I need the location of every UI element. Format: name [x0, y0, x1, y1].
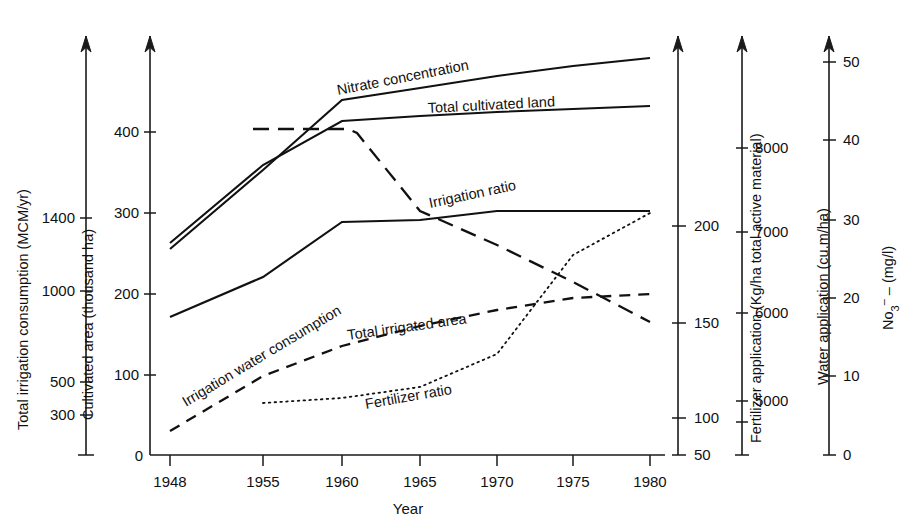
- ticklabel-ca-200: 200: [114, 285, 139, 302]
- ticklabel-wa-5000: 5000: [755, 392, 788, 409]
- axis-title-nitrate-concentration: No3– – (mg/l): [877, 246, 901, 330]
- series-label-irrigation-water-consumption: Irrigation water consumption: [179, 302, 343, 410]
- series-irrigation-ratio: [253, 129, 650, 322]
- ticklabel-ca-0: 0: [135, 447, 143, 464]
- ticklabel-no3-30: 30: [843, 211, 860, 228]
- axis-title-year: Year: [393, 500, 423, 517]
- series-fertilizer-ratio: [263, 213, 650, 403]
- ticklabel-year-1975: 1975: [556, 473, 589, 490]
- ticklabel-fa-150: 150: [694, 314, 719, 331]
- ticklabel-wa-6000: 6000: [755, 304, 788, 321]
- series-total-cultivated-land: [170, 106, 650, 243]
- ticklabel-year-1955: 1955: [246, 473, 279, 490]
- axis-cultivated-area: 0 100 200 300 400 Cultivated area (thous…: [80, 36, 156, 464]
- ticklabel-no3-40: 40: [843, 131, 860, 148]
- ticklabel-wa-8000: 8000: [755, 139, 788, 156]
- ticklabel-ic-1400: 1400: [42, 209, 75, 226]
- ticklabel-ca-300: 300: [114, 204, 139, 221]
- ticklabel-fa-100: 100: [694, 409, 719, 426]
- ticklabel-wa-7000: 7000: [755, 223, 788, 240]
- axis-title-cultivated-area: Cultivated area (thousand ha): [80, 229, 96, 420]
- series-label-irrigation-ratio: Irrigation ratio: [427, 177, 517, 211]
- ticklabel-ic-1000: 1000: [42, 282, 75, 299]
- axis-fertilizer-application: 50 100 150 200 Fertilizer application (K…: [672, 36, 764, 463]
- ticklabel-ic-500: 500: [50, 373, 75, 390]
- ticklabel-year-1980: 1980: [633, 473, 666, 490]
- ticklabel-year-1948: 1948: [153, 473, 186, 490]
- ticklabel-ca-400: 400: [114, 123, 139, 140]
- ticklabel-fa-200: 200: [694, 217, 719, 234]
- series-label-fertilizer-ratio: Fertilizer ratio: [364, 381, 453, 412]
- series-label-total-irrigated-area: Total irrigated area: [346, 310, 468, 343]
- ticklabel-no3-0: 0: [843, 446, 851, 463]
- ticklabel-fa-50: 50: [694, 446, 711, 463]
- ticklabel-no3-10: 10: [843, 367, 860, 384]
- ticklabel-ic-300: 300: [50, 406, 75, 423]
- series-irrigation-water-consumption: [170, 211, 650, 317]
- ticklabel-ca-100: 100: [114, 366, 139, 383]
- ticklabel-year-1970: 1970: [480, 473, 513, 490]
- ticklabel-no3-50: 50: [843, 53, 860, 70]
- series-label-nitrate-concentration: Nitrate concentration: [336, 57, 470, 98]
- ticklabel-no3-20: 20: [843, 289, 860, 306]
- axis-year: 1948 1955 1960 1965 1970 1975 1980 Year: [150, 455, 667, 517]
- series-label-total-cultivated-land: Total cultivated land: [427, 93, 555, 116]
- ticklabel-year-1965: 1965: [403, 473, 436, 490]
- axis-nitrate-concentration: 0 10 20 30 40 50 No3– – (mg/l): [823, 36, 901, 463]
- chart-svg: 300 500 1000 1400 Total irrigation consu…: [0, 0, 904, 525]
- axis-title-irrigation-consumption: Total irrigation consumption (MCM/yr): [15, 189, 31, 430]
- chart-figure: 300 500 1000 1400 Total irrigation consu…: [0, 0, 904, 525]
- ticklabel-year-1960: 1960: [325, 473, 358, 490]
